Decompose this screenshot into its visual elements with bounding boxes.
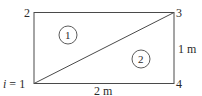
node-3-label: 3 xyxy=(176,7,182,19)
node-2-label: 2 xyxy=(24,7,30,19)
node-1-number: 1 xyxy=(19,77,25,91)
node-4-label: 4 xyxy=(176,78,182,90)
node-1-equals: = xyxy=(6,77,19,91)
mesh-diagram xyxy=(0,0,202,96)
width-dimension-label: 2 m xyxy=(94,85,112,96)
element-1-label: 1 xyxy=(65,29,71,41)
element-2-label: 2 xyxy=(138,53,144,65)
height-dimension-label: 1 m xyxy=(178,43,196,55)
diagonal-edge xyxy=(34,13,174,84)
node-1-label: i = 1 xyxy=(3,78,25,90)
